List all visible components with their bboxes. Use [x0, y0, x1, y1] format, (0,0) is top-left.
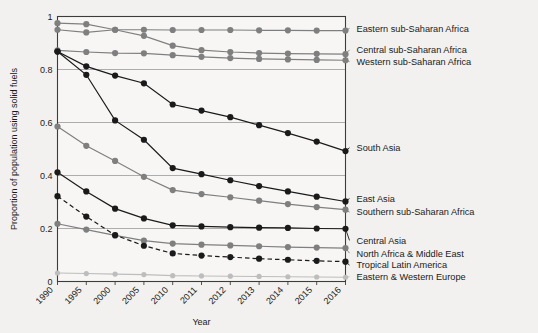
data-point — [55, 270, 60, 275]
series-label: Eastern sub-Saharan Africa — [357, 24, 470, 34]
data-point — [285, 51, 291, 57]
data-point — [314, 244, 320, 250]
data-point — [256, 225, 262, 231]
data-point — [141, 33, 147, 39]
data-point — [112, 27, 118, 33]
data-point — [227, 55, 233, 61]
y-tick-label: 0.8 — [40, 65, 53, 75]
data-point — [285, 201, 291, 207]
data-point — [314, 51, 320, 57]
data-point — [228, 274, 233, 279]
data-point — [227, 27, 233, 33]
data-point — [256, 198, 262, 204]
data-point — [54, 123, 60, 129]
solid-fuels-line-chart: 00.20.40.60.8119901995200020052010201120… — [0, 0, 538, 333]
data-point — [285, 130, 291, 136]
data-point — [285, 56, 291, 62]
data-point — [256, 50, 262, 56]
data-point — [198, 252, 204, 258]
data-point — [227, 254, 233, 260]
data-point — [83, 29, 89, 35]
series-label: North Africa & Middle East — [357, 249, 465, 259]
data-point — [54, 20, 60, 26]
data-point — [285, 188, 291, 194]
series-label: Western sub-Saharan Africa — [357, 57, 473, 67]
chart-figure: 00.20.40.60.8119901995200020052010201120… — [0, 0, 538, 333]
data-point — [198, 191, 204, 197]
data-point — [170, 27, 176, 33]
data-point — [198, 47, 204, 53]
series-label: Tropical Latin America — [357, 260, 448, 270]
data-point — [54, 169, 60, 175]
data-point — [170, 43, 176, 49]
data-point — [141, 50, 147, 56]
data-point — [170, 241, 176, 247]
data-point — [112, 206, 118, 212]
data-point — [54, 221, 60, 227]
y-tick-label: 0.4 — [40, 171, 53, 181]
data-point — [198, 171, 204, 177]
data-point — [285, 225, 291, 231]
data-point — [170, 187, 176, 193]
data-point — [227, 114, 233, 120]
data-point — [199, 273, 204, 278]
data-point — [84, 271, 89, 276]
data-point — [83, 188, 89, 194]
data-point — [314, 258, 320, 264]
data-point — [314, 138, 320, 144]
data-point — [342, 226, 348, 232]
data-point — [141, 137, 147, 143]
y-tick-label: 0.2 — [40, 224, 53, 234]
data-point — [314, 225, 320, 231]
data-point — [112, 158, 118, 164]
data-point — [314, 204, 320, 210]
data-point — [227, 177, 233, 183]
data-point — [83, 21, 89, 27]
data-point — [198, 107, 204, 113]
data-point — [141, 174, 147, 180]
data-point — [285, 27, 291, 33]
data-point — [198, 27, 204, 33]
data-point — [141, 27, 147, 33]
series-label: Central sub-Saharan Africa — [357, 45, 468, 55]
data-point — [227, 224, 233, 230]
y-tick-label: 0.6 — [40, 118, 53, 128]
data-point — [256, 243, 262, 249]
series-label: Eastern & Western Europe — [357, 272, 466, 282]
data-point — [227, 242, 233, 248]
data-point — [285, 274, 290, 279]
data-point — [170, 273, 175, 278]
data-point — [227, 49, 233, 55]
data-point — [257, 274, 262, 279]
series-label-leader — [346, 277, 350, 278]
data-point — [141, 272, 146, 277]
data-point — [314, 194, 320, 200]
y-tick-label: 1 — [47, 12, 52, 22]
data-point — [170, 222, 176, 228]
data-point — [170, 250, 176, 256]
y-axis-title: Proportion of population using solid fue… — [9, 67, 19, 230]
data-point — [170, 101, 176, 107]
data-point — [83, 72, 89, 78]
data-point — [83, 226, 89, 232]
data-point — [285, 244, 291, 250]
series-label: South Asia — [357, 143, 402, 153]
data-point — [54, 193, 60, 199]
data-point — [54, 27, 60, 33]
data-point — [314, 274, 319, 279]
data-point — [112, 72, 118, 78]
data-point — [198, 223, 204, 229]
data-point — [256, 27, 262, 33]
data-point — [141, 243, 147, 249]
data-point — [314, 27, 320, 33]
data-point — [198, 242, 204, 248]
data-point — [83, 49, 89, 55]
data-point — [285, 257, 291, 263]
data-point — [170, 165, 176, 171]
series-label: Central Asia — [357, 236, 407, 246]
data-point — [256, 256, 262, 262]
data-point — [141, 80, 147, 86]
data-point — [83, 213, 89, 219]
data-point — [314, 57, 320, 63]
data-point — [256, 183, 262, 189]
